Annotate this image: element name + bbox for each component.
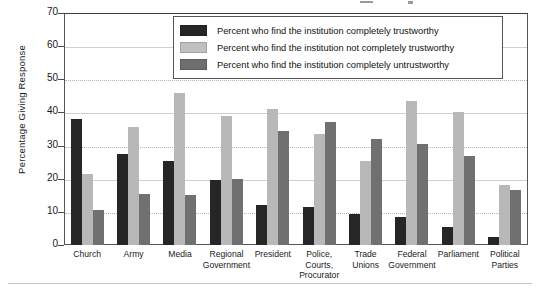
bar xyxy=(360,161,371,246)
y-axis-tick-mark xyxy=(58,245,64,246)
legend-label: Percent who find the institution not com… xyxy=(217,43,454,53)
bar xyxy=(395,217,406,245)
x-axis-labels: ChurchArmyMediaRegionalGovernmentPreside… xyxy=(64,249,528,292)
bar xyxy=(174,93,185,245)
bar xyxy=(488,237,499,245)
bar xyxy=(417,144,428,245)
bar xyxy=(210,180,221,245)
bar xyxy=(303,207,314,245)
bar xyxy=(117,154,128,245)
y-axis-tick-label: 30 xyxy=(28,139,58,150)
bar xyxy=(349,214,360,245)
bar xyxy=(464,156,475,245)
y-axis-title: Percentage Giving Response xyxy=(16,25,27,195)
bar xyxy=(406,101,417,245)
y-axis-tick-label: 60 xyxy=(28,39,58,50)
bar xyxy=(93,210,104,245)
legend-label: Percent who find the institution complet… xyxy=(217,26,439,36)
bar xyxy=(442,227,453,245)
y-axis-tick-label: 70 xyxy=(28,6,58,17)
x-axis-label: PoliticalParties xyxy=(474,249,536,270)
bar xyxy=(71,119,82,245)
legend-item: Percent who find the institution complet… xyxy=(180,56,495,73)
legend-item: Percent who find the institution not com… xyxy=(180,39,495,56)
bar xyxy=(128,127,139,245)
y-axis-tick-label: 40 xyxy=(28,105,58,116)
y-axis-tick-label: 50 xyxy=(28,72,58,83)
y-axis-tick-label: 0 xyxy=(28,238,58,249)
bar xyxy=(510,190,521,245)
legend-swatch-light-icon xyxy=(180,42,207,53)
chart-legend: Percent who find the institution complet… xyxy=(173,16,503,79)
bar xyxy=(499,185,510,245)
bar xyxy=(314,134,325,245)
bar xyxy=(453,112,464,245)
bar xyxy=(139,194,150,245)
legend-label: Percent who find the institution complet… xyxy=(217,60,449,70)
bar xyxy=(221,116,232,245)
legend-swatch-dark-icon xyxy=(180,25,207,36)
legend-swatch-medium-icon xyxy=(180,59,207,70)
y-axis-tick-label: 10 xyxy=(28,205,58,216)
footer-rule xyxy=(8,283,532,284)
bar xyxy=(82,174,93,245)
bar xyxy=(163,161,174,246)
bar xyxy=(256,205,267,245)
bar-group xyxy=(110,13,156,245)
scan-artifact xyxy=(356,1,416,5)
bar-chart: Percentage Giving Response 0102030405060… xyxy=(0,0,540,292)
bar xyxy=(185,195,196,245)
bar xyxy=(267,109,278,245)
y-axis-tick-label: 20 xyxy=(28,172,58,183)
legend-item: Percent who find the institution complet… xyxy=(180,22,495,39)
bar xyxy=(278,131,289,245)
bar xyxy=(232,179,243,245)
bar xyxy=(371,139,382,245)
bar-group xyxy=(64,13,110,245)
bar xyxy=(325,122,336,245)
